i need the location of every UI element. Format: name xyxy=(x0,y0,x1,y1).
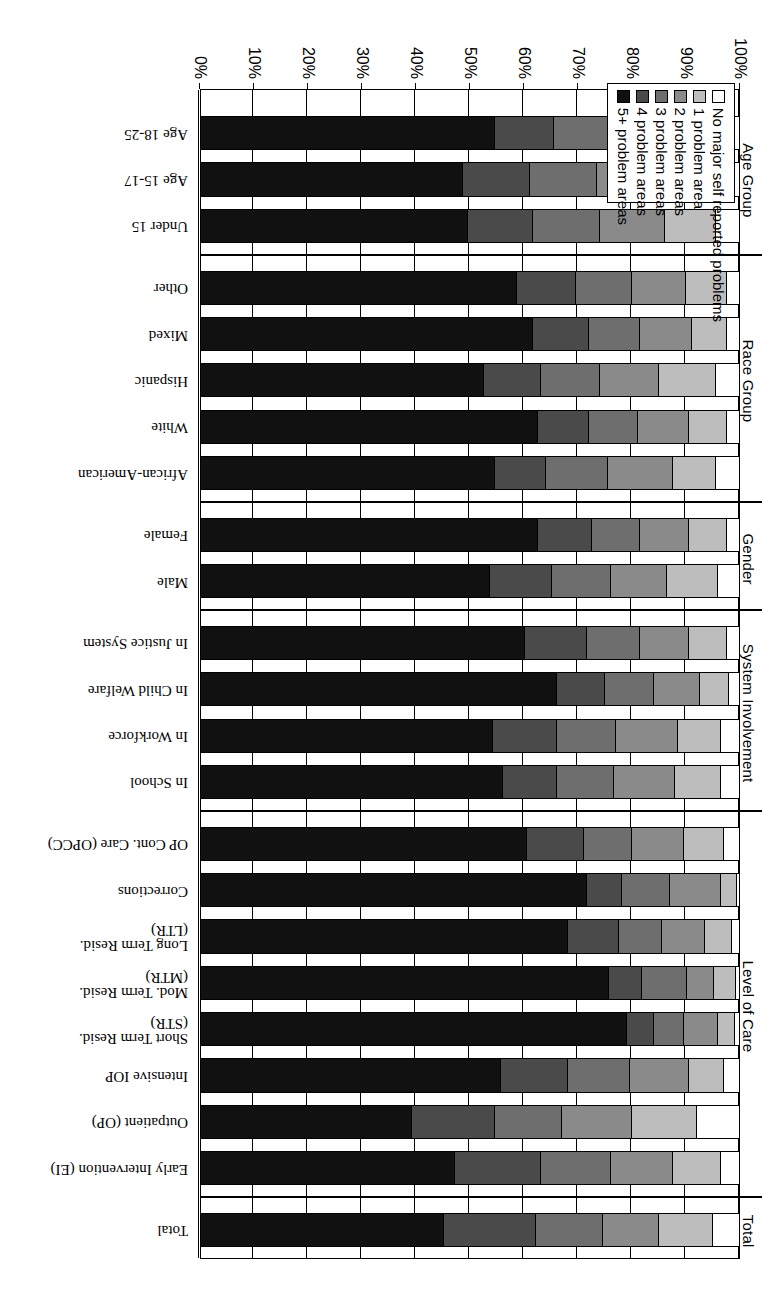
bar-segment xyxy=(629,1059,688,1091)
bar-segment xyxy=(201,1106,411,1138)
bar-segment xyxy=(556,766,612,798)
bar-segment xyxy=(674,766,720,798)
bar-segment xyxy=(201,318,532,350)
axis-tick-label: 90% xyxy=(677,47,695,79)
bar-segment xyxy=(666,565,717,597)
axis-tick-label: 70% xyxy=(569,47,587,79)
group-label: System Involvement xyxy=(740,627,757,800)
bar-segment xyxy=(639,627,687,659)
bar-segment xyxy=(661,920,704,952)
axis-tick-label: 10% xyxy=(245,47,263,79)
bar-segment xyxy=(677,720,720,752)
bar-category-label: Intensive IOP xyxy=(105,1069,188,1084)
bar-segment xyxy=(201,1152,454,1184)
bar-segment xyxy=(489,565,551,597)
bar-row xyxy=(201,919,739,953)
bar-segment xyxy=(631,1106,696,1138)
bar-row xyxy=(201,410,739,444)
legend-swatch xyxy=(712,90,725,103)
axis-tick-label: 30% xyxy=(353,47,371,79)
bar-segment xyxy=(686,967,713,999)
bar-segment xyxy=(718,1013,734,1045)
bar-segment xyxy=(575,272,631,304)
bar-segment xyxy=(201,874,586,906)
bar-segment xyxy=(720,1152,739,1184)
bar-segment xyxy=(691,318,726,350)
bar-segment xyxy=(618,920,661,952)
bar-segment xyxy=(613,766,675,798)
legend-label: 5+ problem areas xyxy=(615,108,632,225)
bar-segment xyxy=(607,457,672,489)
legend: No major self reported problems1 problem… xyxy=(607,83,735,203)
legend-swatch xyxy=(674,90,687,103)
bar-segment xyxy=(201,967,608,999)
bar-segment xyxy=(672,457,715,489)
bar-segment xyxy=(201,565,489,597)
bar-segment xyxy=(483,364,539,396)
group-separator xyxy=(200,609,762,611)
legend-item: 4 problem areas xyxy=(634,90,651,196)
bar-segment xyxy=(201,411,537,443)
axis-tick xyxy=(739,83,740,89)
bar-category-label: Corrections xyxy=(118,884,188,899)
bar-category-label: Age 15-17 xyxy=(124,173,188,188)
bar-segment xyxy=(641,967,687,999)
bar-segment xyxy=(201,920,567,952)
bar-segment xyxy=(201,210,467,242)
bar-segment xyxy=(532,318,588,350)
bar-segment xyxy=(599,364,658,396)
bar-segment xyxy=(720,720,739,752)
bar-segment xyxy=(653,673,699,705)
axis-tick xyxy=(523,83,524,89)
bar-segment xyxy=(535,1214,602,1246)
bar-category-label: Outpatient (OP) xyxy=(92,1115,188,1130)
bar-category-label: Mod. Term Resid.(MTR) xyxy=(79,970,188,1000)
bar-segment xyxy=(734,1013,739,1045)
bar-category-label: In Justice System xyxy=(83,636,188,651)
bar-segment xyxy=(494,1106,561,1138)
bar-segment xyxy=(201,164,462,196)
group-separator xyxy=(200,501,762,503)
bar-segment xyxy=(683,828,723,860)
axis-tick xyxy=(577,83,578,89)
bar-row xyxy=(201,1213,739,1247)
axis-tick-label: 20% xyxy=(299,47,317,79)
bar-segment xyxy=(728,673,739,705)
bar-segment xyxy=(608,967,640,999)
legend-item: 5+ problem areas xyxy=(615,90,632,196)
bar-category-label: Total xyxy=(157,1223,188,1238)
bar-segment xyxy=(717,565,739,597)
bar-category-label: Mixed xyxy=(149,328,188,343)
bar-segment xyxy=(201,117,494,149)
group-separator xyxy=(200,1196,762,1198)
legend-swatch xyxy=(617,90,630,103)
group-label: Race Group xyxy=(740,272,757,492)
bar-segment xyxy=(527,828,583,860)
bar-category-label: Hispanic xyxy=(135,374,188,389)
bar-segment xyxy=(639,519,687,551)
bar-segment xyxy=(545,457,607,489)
bar-segment xyxy=(735,967,739,999)
bar-category-label: Other xyxy=(154,281,188,296)
bar-category-label: Female xyxy=(144,528,188,543)
axis-tick-label: 40% xyxy=(407,47,425,79)
bar-segment xyxy=(726,318,739,350)
bar-row xyxy=(201,873,739,907)
bar-segment xyxy=(556,673,604,705)
bar-segment xyxy=(201,1059,500,1091)
bar-segment xyxy=(551,565,610,597)
bar-row xyxy=(201,719,739,753)
bar-category-label: Long Term Resid.(LTR) xyxy=(80,923,188,953)
legend-swatch xyxy=(636,90,649,103)
bar-segment xyxy=(201,828,527,860)
bar-segment xyxy=(454,1152,540,1184)
bar-segment xyxy=(567,920,618,952)
legend-label: 4 problem areas xyxy=(634,108,651,216)
bar-category-label: OP Cont. Care (OPCC) xyxy=(48,837,188,852)
bar-segment xyxy=(540,1152,610,1184)
bar-segment xyxy=(683,1013,718,1045)
gridline xyxy=(198,90,199,1258)
group-label: Age Group xyxy=(740,117,757,244)
legend-item: 3 problem areas xyxy=(653,90,670,196)
bar-segment xyxy=(631,272,685,304)
